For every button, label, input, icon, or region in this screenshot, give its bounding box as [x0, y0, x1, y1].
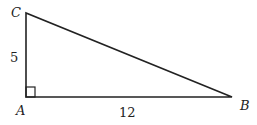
side-label-ac: 5 [10, 50, 18, 65]
right-angle-marker [26, 87, 35, 97]
side-label-ab: 12 [119, 105, 136, 120]
vertex-label-a: A [15, 103, 25, 118]
vertex-label-b: B [239, 98, 250, 113]
vertex-label-c: C [11, 5, 21, 20]
triangle-abc [26, 13, 232, 97]
triangle-diagram: C 5 A 12 B [0, 0, 257, 125]
